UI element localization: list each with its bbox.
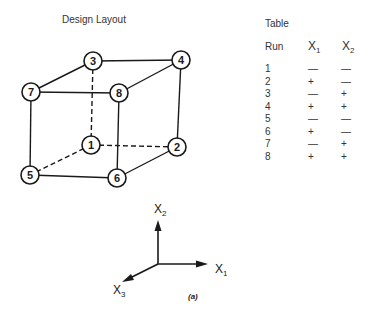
table-title: Table	[265, 18, 289, 29]
cell-x2: +	[341, 101, 347, 112]
node-1: 1	[82, 136, 100, 154]
figure-caption: (a)	[188, 292, 198, 301]
table-row: 5——	[263, 113, 363, 124]
edge-1-2	[91, 145, 177, 147]
table-row: 3—+	[263, 88, 363, 99]
axis-label-x2: X2	[154, 202, 166, 216]
edge-3-7	[31, 61, 93, 92]
cell-run: 7	[265, 138, 271, 149]
node-4: 4	[172, 51, 190, 69]
node-5: 5	[21, 166, 39, 184]
cube-edges	[30, 60, 181, 178]
node-label: 7	[28, 86, 34, 98]
cell-run: 2	[265, 76, 271, 87]
cell-run: 1	[265, 63, 271, 74]
cell-x2: +	[341, 88, 347, 99]
cell-x1: +	[308, 151, 314, 162]
edge-4-8	[119, 60, 181, 93]
edge-6-2	[117, 147, 177, 178]
cell-x2: —	[341, 113, 351, 124]
edge-5-6	[30, 175, 117, 178]
cell-x2: —	[341, 126, 351, 137]
cell-x1: —	[308, 113, 318, 124]
table-row: 2+—	[263, 76, 363, 87]
cell-x1: —	[308, 63, 318, 74]
node-label: 1	[88, 139, 94, 151]
cell-run: 6	[265, 126, 271, 137]
cell-x2: —	[341, 76, 351, 87]
cell-run: 3	[265, 88, 271, 99]
header-run: Run	[265, 41, 283, 52]
cell-run: 8	[265, 151, 271, 162]
node-3: 3	[84, 52, 102, 70]
table-row: 7—+	[263, 138, 363, 149]
x3-arrowhead-icon	[122, 274, 134, 282]
table-row: 8++	[263, 151, 363, 162]
cell-x1: +	[308, 126, 314, 137]
edge-1-5	[30, 145, 91, 175]
node-label: 8	[116, 87, 122, 99]
edge-8-6	[117, 93, 119, 178]
node-label: 3	[90, 55, 96, 67]
edge-7-8	[31, 92, 119, 93]
cell-x2: +	[341, 151, 347, 162]
node-8: 8	[110, 84, 128, 102]
axis-label-x3: X3	[113, 283, 125, 297]
node-label: 5	[27, 169, 33, 181]
node-label: 2	[174, 141, 180, 153]
edge-7-5	[30, 92, 31, 175]
node-2: 2	[168, 138, 186, 156]
x2-arrowhead-icon	[155, 220, 162, 231]
cell-x2: —	[341, 63, 351, 74]
edge-3-1	[91, 61, 93, 145]
node-7: 7	[22, 83, 40, 101]
header-x1: X1	[308, 39, 320, 53]
cell-x1: +	[308, 76, 314, 87]
axes-diagram	[122, 220, 208, 282]
x3-axis-line	[128, 264, 158, 279]
node-label: 4	[178, 54, 185, 66]
cell-x2: +	[341, 138, 347, 149]
cell-run: 4	[265, 101, 271, 112]
cell-x1: —	[308, 138, 318, 149]
table-row: 6+—	[263, 126, 363, 137]
node-label: 6	[114, 172, 120, 184]
node-6: 6	[108, 169, 126, 187]
cell-run: 5	[265, 113, 271, 124]
x1-arrowhead-icon	[196, 261, 208, 268]
table-row: 4++	[263, 101, 363, 112]
cell-x1: +	[308, 101, 314, 112]
table-row: 1——	[263, 63, 363, 74]
cell-x1: —	[308, 88, 318, 99]
edge-4-2	[177, 60, 181, 147]
axis-label-x1: X1	[215, 262, 227, 276]
header-x2: X2	[342, 39, 354, 53]
edge-3-4	[93, 60, 181, 61]
